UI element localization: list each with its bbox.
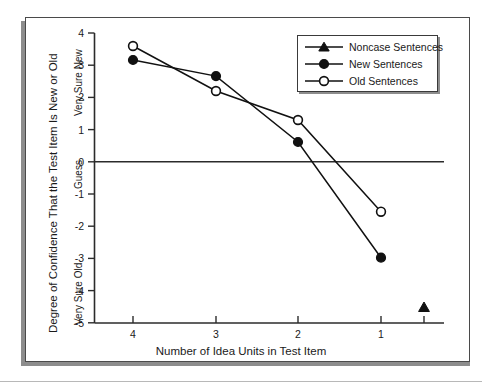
x-tick-label-2: 2	[286, 328, 310, 340]
y-tick-label-1: 1	[62, 124, 84, 136]
y-tick-label-4: 4	[62, 27, 84, 39]
legend-swatch-circle-open-icon	[304, 74, 344, 88]
chart-legend: Noncase Sentences New Sentences Old Sent…	[297, 35, 438, 92]
x-tick-label-4: 4	[121, 328, 145, 340]
legend-swatch-circle-filled-icon	[304, 57, 344, 71]
legend-item-noncase-sentences: Noncase Sentences	[304, 39, 443, 55]
legend-swatch-triangle-filled-icon	[304, 40, 344, 54]
y-axis-anchor-guess: Guess	[73, 160, 84, 189]
y-tick-label-neg1: -1	[62, 188, 84, 200]
page-divider-rule	[0, 381, 482, 382]
x-tick-label-3: 3	[204, 328, 228, 340]
y-axis-title: Degree of Confidence That the Test Item …	[47, 53, 59, 333]
x-tick-label-1: 1	[369, 328, 393, 340]
y-tick-label-neg2: -2	[62, 220, 84, 232]
legend-label-new-sentences: New Sentences	[349, 58, 423, 70]
y-axis-anchor-very-sure-new: Very Sure New	[73, 49, 84, 116]
figure-shadow-bottom	[21, 362, 470, 366]
legend-label-old-sentences: Old Sentences	[349, 75, 418, 87]
legend-item-old-sentences: Old Sentences	[304, 73, 418, 89]
legend-label-noncase-sentences: Noncase Sentences	[349, 41, 443, 53]
legend-item-new-sentences: New Sentences	[304, 56, 423, 72]
x-axis-title: Number of Idea Units in Test Item	[0, 345, 482, 357]
y-axis-anchor-very-sure-old: Very Sure Old	[73, 263, 84, 325]
